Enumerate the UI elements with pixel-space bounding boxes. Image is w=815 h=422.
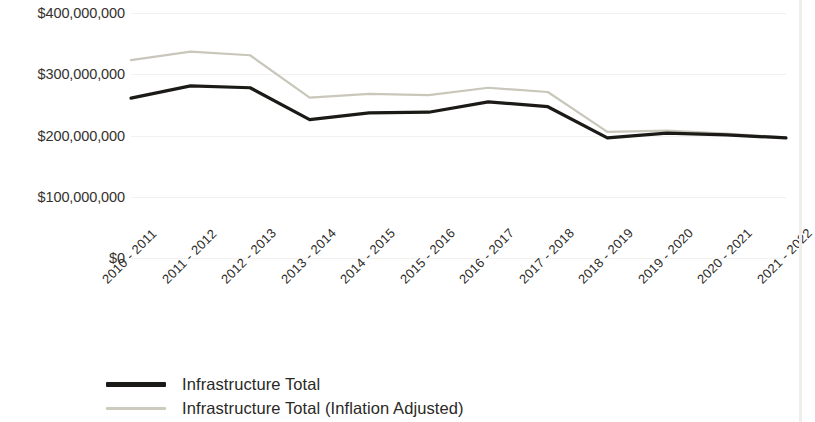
legend-color-swatch — [106, 407, 166, 410]
x-axis: 2010 - 20112011 - 20122012 - 20132013 - … — [131, 262, 791, 362]
y-axis-tick-label: $300,000,000 — [0, 66, 125, 82]
series-line — [131, 52, 786, 138]
plot-area — [131, 13, 786, 258]
legend-item-label: Infrastructure Total — [182, 375, 320, 394]
chart-legend: Infrastructure TotalInfrastructure Total… — [106, 372, 726, 420]
page-edge — [799, 0, 802, 422]
legend-item-label: Infrastructure Total (Inflation Adjusted… — [182, 399, 464, 418]
legend-item[interactable]: Infrastructure Total — [106, 372, 726, 396]
y-axis-tick-label: $400,000,000 — [0, 5, 125, 21]
grid-line-4 — [131, 258, 786, 259]
series-lines — [131, 13, 786, 258]
y-axis-tick-label: $0 — [0, 250, 125, 266]
legend-color-swatch — [106, 382, 166, 387]
y-axis: $400,000,000$300,000,000$200,000,000$100… — [0, 0, 125, 275]
y-axis-tick-label: $200,000,000 — [0, 128, 125, 144]
y-axis-tick-label: $100,000,000 — [0, 189, 125, 205]
legend-item[interactable]: Infrastructure Total (Inflation Adjusted… — [106, 396, 726, 420]
series-line — [131, 86, 786, 138]
